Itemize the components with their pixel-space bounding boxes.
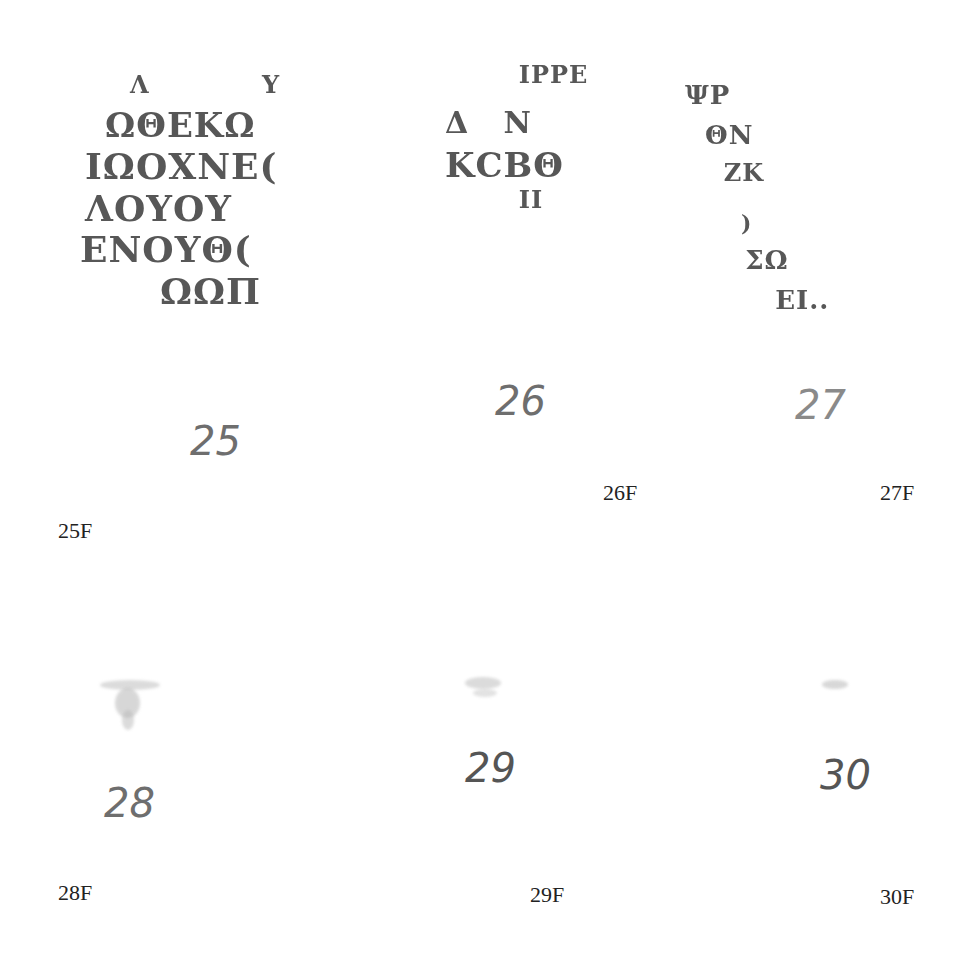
fragment-26-line-4: ΙΙ <box>500 185 543 214</box>
figure-27-fragment: ΨΡ ΘΝ ΖΚ ) ΣΩ ΕΙ.. <box>685 70 945 360</box>
figure-29-label: 29F <box>530 882 564 908</box>
fragment-27-line-6: ΕΙ.. <box>735 285 829 315</box>
fragment-25-line-6: ΩΩΠ <box>160 270 261 312</box>
figure-25-label: 25F <box>58 518 92 544</box>
figure-27-label: 27F <box>880 480 914 506</box>
fragment-27-line-3: ΖΚ <box>705 158 764 187</box>
figure-26-number: 26 <box>495 378 546 424</box>
fragment-25-line-2: ΩΘΕΚΩ <box>105 105 256 145</box>
fragment-25-line-3: ΙΩΟΧΝΕ( <box>85 145 278 187</box>
fragment-26-line-2: Δ Ν <box>445 105 532 140</box>
fragment-25-line-5: ΕΝΟΥΘ( <box>80 228 252 270</box>
figure-25-fragment: Λ Υ ΩΘΕΚΩ ΙΩΟΧΝΕ( ΛΟΥΟΥ ΕΝΟΥΘ( ΩΩΠ <box>80 70 380 340</box>
figure-29-number: 29 <box>465 745 516 791</box>
figure-30-fragment <box>822 678 852 694</box>
fragment-25-line-4: ΛΟΥΟΥ <box>85 187 232 229</box>
figure-30-number: 30 <box>820 752 871 798</box>
figure-26-fragment: ΙΡΡΕ Δ Ν ΚCΒΘ ΙΙ <box>440 60 650 230</box>
fragment-26-line-1: ΙΡΡΕ <box>500 60 588 89</box>
figure-27-number: 27 <box>795 382 846 428</box>
figure-25-number: 25 <box>190 418 241 464</box>
fragment-25-line-1: Λ Υ <box>130 70 280 99</box>
figure-28-label: 28F <box>58 880 92 906</box>
fragment-27-line-2: ΘΝ <box>695 120 753 150</box>
figure-29-fragment <box>465 675 505 705</box>
fragment-27-line-1: ΨΡ <box>685 80 730 110</box>
fragment-27-line-4: ) <box>715 210 752 236</box>
figure-28-number: 28 <box>104 780 155 826</box>
figure-28-fragment <box>90 680 170 740</box>
fragment-27-line-5: ΣΩ <box>715 245 789 275</box>
figure-30-label: 30F <box>880 884 914 910</box>
figure-26-label: 26F <box>603 480 637 506</box>
fragment-26-line-3: ΚCΒΘ <box>445 145 564 185</box>
